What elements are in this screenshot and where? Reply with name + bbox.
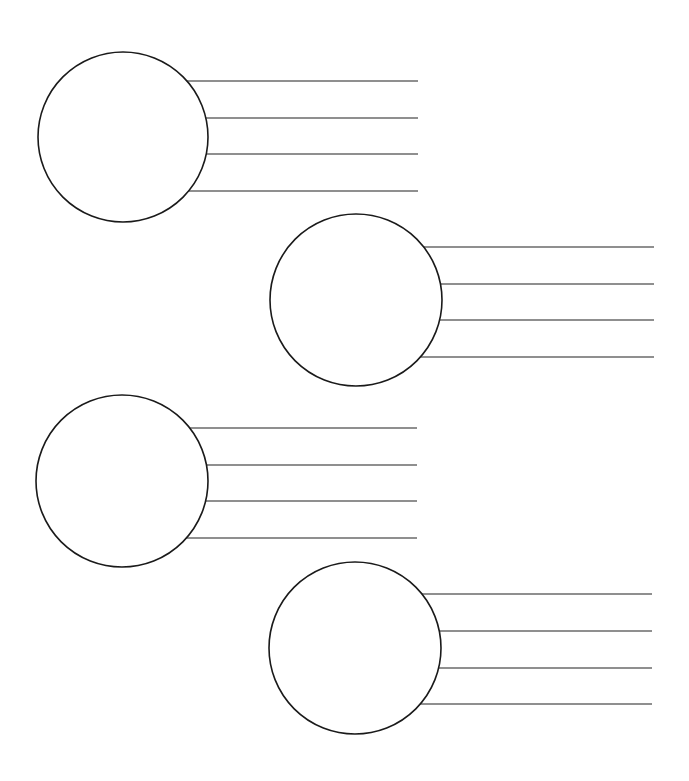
organizer-group-3 — [36, 395, 417, 567]
circle-line-worksheet — [0, 0, 689, 781]
blank-circle — [269, 562, 441, 734]
blank-circle — [36, 395, 208, 567]
organizer-group-1 — [38, 52, 418, 222]
blank-circle — [270, 214, 442, 386]
organizer-group-4 — [269, 562, 652, 734]
organizer-group-2 — [270, 214, 654, 386]
blank-circle — [38, 52, 208, 222]
